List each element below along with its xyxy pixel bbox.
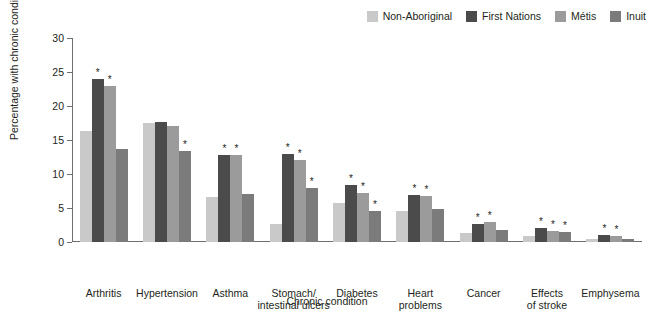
- bar[interactable]: [408, 195, 420, 242]
- significance-marker: *: [535, 219, 547, 225]
- bar[interactable]: [472, 224, 484, 242]
- bar-group: **: [396, 38, 444, 242]
- legend-swatch-icon: [555, 11, 566, 22]
- y-axis-tick: [67, 72, 72, 73]
- bar[interactable]: [547, 231, 559, 242]
- chart-legend: Non-AboriginalFirst NationsMétisInuit: [367, 11, 646, 22]
- y-axis-tick: [67, 174, 72, 175]
- y-axis-tick: [67, 208, 72, 209]
- bar[interactable]: [586, 239, 598, 242]
- legend-label: First Nations: [482, 11, 541, 22]
- bar-group: *: [143, 38, 191, 242]
- bar-group: ***: [333, 38, 381, 242]
- bar[interactable]: [610, 236, 622, 242]
- y-axis-tick-label: 20: [42, 100, 64, 112]
- y-axis-title: Percentage with chronic condition: [8, 0, 20, 140]
- bar[interactable]: [242, 194, 254, 242]
- significance-marker: *: [547, 222, 559, 228]
- significance-marker: *: [369, 202, 381, 208]
- significance-marker: *: [610, 227, 622, 233]
- bar[interactable]: [460, 233, 472, 242]
- legend-item[interactable]: Métis: [555, 11, 596, 22]
- y-axis-tick-label: 10: [42, 168, 64, 180]
- significance-marker: *: [230, 146, 242, 152]
- significance-marker: *: [357, 184, 369, 190]
- bar[interactable]: [179, 151, 191, 242]
- bar-group: **: [80, 38, 128, 242]
- significance-marker: *: [294, 151, 306, 157]
- legend-label: Inuit: [626, 11, 646, 22]
- bar-group: ***: [523, 38, 571, 242]
- legend-item[interactable]: First Nations: [466, 11, 541, 22]
- significance-marker: *: [104, 77, 116, 83]
- bar[interactable]: [357, 193, 369, 242]
- y-axis-tick: [67, 38, 72, 39]
- legend-item[interactable]: Non-Aboriginal: [367, 11, 452, 22]
- chart-root: Non-AboriginalFirst NationsMétisInuit Pe…: [0, 0, 654, 319]
- bar-group: ***: [270, 38, 318, 242]
- significance-marker: *: [559, 223, 571, 229]
- y-axis-tick: [67, 106, 72, 107]
- bar[interactable]: [143, 123, 155, 242]
- x-axis-title: Chronic condition: [0, 295, 654, 307]
- bar[interactable]: [282, 154, 294, 242]
- legend-item[interactable]: Inuit: [610, 11, 646, 22]
- bar[interactable]: [294, 160, 306, 242]
- legend-label: Métis: [571, 11, 596, 22]
- bar[interactable]: [535, 228, 547, 242]
- y-axis-tick-label: 25: [42, 66, 64, 78]
- bar[interactable]: [622, 239, 634, 242]
- bar[interactable]: [484, 222, 496, 242]
- bar[interactable]: [523, 236, 535, 242]
- significance-marker: *: [484, 213, 496, 219]
- bar[interactable]: [306, 188, 318, 242]
- bar[interactable]: [206, 197, 218, 242]
- bar[interactable]: [104, 86, 116, 242]
- bar[interactable]: [218, 155, 230, 242]
- y-axis-tick: [67, 242, 72, 243]
- bar[interactable]: [345, 185, 357, 242]
- significance-marker: *: [282, 145, 294, 151]
- bar[interactable]: [80, 131, 92, 242]
- legend-swatch-icon: [466, 11, 477, 22]
- bar[interactable]: [116, 149, 128, 242]
- significance-marker: *: [598, 226, 610, 232]
- bar-group: **: [206, 38, 254, 242]
- bar[interactable]: [270, 224, 282, 242]
- y-axis-tick-label: 15: [42, 134, 64, 146]
- y-axis-line: [72, 38, 73, 242]
- bar[interactable]: [598, 235, 610, 242]
- bar[interactable]: [333, 203, 345, 242]
- significance-marker: *: [92, 70, 104, 76]
- y-axis-tick-label: 30: [42, 32, 64, 44]
- significance-marker: *: [306, 179, 318, 185]
- legend-swatch-icon: [610, 11, 621, 22]
- bar[interactable]: [396, 211, 408, 242]
- y-axis-tick: [67, 140, 72, 141]
- bar[interactable]: [420, 196, 432, 242]
- bar[interactable]: [230, 155, 242, 242]
- legend-swatch-icon: [367, 11, 378, 22]
- bar[interactable]: [92, 79, 104, 242]
- legend-label: Non-Aboriginal: [383, 11, 452, 22]
- significance-marker: *: [218, 146, 230, 152]
- significance-marker: *: [408, 186, 420, 192]
- significance-marker: *: [179, 142, 191, 148]
- bar-group: **: [586, 38, 634, 242]
- plot-area: 051015202530**Arthritis*Hypertension**As…: [72, 38, 642, 242]
- bar[interactable]: [432, 209, 444, 242]
- significance-marker: *: [345, 176, 357, 182]
- bar[interactable]: [155, 122, 167, 242]
- bar[interactable]: [559, 232, 571, 242]
- significance-marker: *: [420, 187, 432, 193]
- bar[interactable]: [369, 211, 381, 242]
- significance-marker: *: [472, 215, 484, 221]
- bar[interactable]: [167, 126, 179, 242]
- y-axis-tick-label: 0: [42, 236, 64, 248]
- y-axis-tick-label: 5: [42, 202, 64, 214]
- bar-group: **: [460, 38, 508, 242]
- bar[interactable]: [496, 230, 508, 242]
